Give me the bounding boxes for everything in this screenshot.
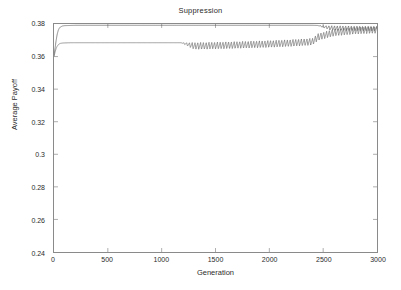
y-tick-label: 0.32 <box>31 118 49 125</box>
plot-svg <box>54 24 377 252</box>
y-tick-label: 0.26 <box>31 217 49 224</box>
y-tick-label: 0.34 <box>31 85 49 92</box>
x-axis-tick-labels: 050010001500200025003000 <box>53 256 378 268</box>
chart-figure: Suppression 0.240.260.280.30.320.340.360… <box>0 0 401 290</box>
y-axis-tick-labels: 0.240.260.280.30.320.340.360.38 <box>0 23 49 253</box>
series-line-lower-curve <box>54 26 377 56</box>
x-tick-label: 2000 <box>262 256 278 263</box>
x-tick-label: 3000 <box>370 256 386 263</box>
x-tick-label: 1500 <box>208 256 224 263</box>
y-tick-label: 0.36 <box>31 52 49 59</box>
y-tick-label: 0.24 <box>31 250 49 257</box>
x-tick-label: 500 <box>101 256 113 263</box>
y-axis-label: Average Payoff <box>10 55 19 155</box>
y-tick-label: 0.3 <box>35 151 49 158</box>
x-tick-label: 2500 <box>316 256 332 263</box>
data-series-group <box>54 25 377 56</box>
axis-tick-marks <box>54 24 377 252</box>
y-tick-label: 0.38 <box>31 20 49 27</box>
plot-area <box>53 23 378 253</box>
chart-title: Suppression <box>0 6 401 15</box>
x-axis-label: Generation <box>53 268 378 277</box>
series-line-upper-curve <box>54 25 377 55</box>
y-tick-label: 0.28 <box>31 184 49 191</box>
x-tick-label: 1000 <box>154 256 170 263</box>
x-tick-label: 0 <box>51 256 55 263</box>
